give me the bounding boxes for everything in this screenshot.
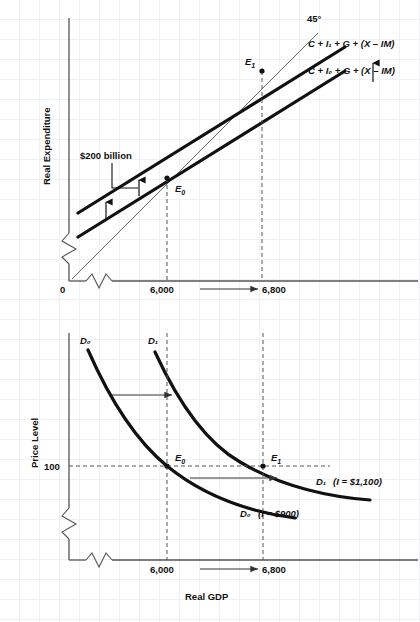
- figure-svg: E0 E1 45° C + I₁ + G + (X – IM) C + I₀ +…: [0, 0, 420, 622]
- bottom-e0-label: E0: [175, 452, 185, 465]
- d0-right-label: D₀: [240, 508, 251, 519]
- top-e0-label: E0: [175, 183, 185, 196]
- forty-five-degree-label: 45°: [307, 13, 322, 24]
- shift-amount-label: $200 billion: [80, 150, 132, 161]
- bottom-equilibrium-point-e1: [260, 463, 265, 468]
- bottom-xtick-6000: 6,000: [150, 564, 174, 575]
- economics-figure: E0 E1 45° C + I₁ + G + (X – IM) C + I₀ +…: [0, 0, 420, 622]
- top-y-axis-title: Real Expenditure: [41, 107, 52, 185]
- top-chart-panel: E0 E1 45° C + I₁ + G + (X – IM) C + I₀ +…: [41, 13, 418, 295]
- expenditure-upper-label: C + I₁ + G + (X – IM): [308, 38, 395, 49]
- bottom-equilibrium-point-e0: [164, 463, 169, 468]
- top-equilibrium-point-e1: [259, 68, 264, 73]
- d0-right-note: (I = $900): [258, 508, 299, 519]
- bottom-x-axis-title: Real GDP: [185, 591, 229, 602]
- bottom-y-axis-break: [62, 508, 76, 539]
- top-y-axis-break: [62, 233, 76, 264]
- d1-right-label: D₁: [316, 476, 326, 487]
- top-xtick-6000: 6,000: [150, 284, 174, 295]
- bottom-x-axis-break: [86, 553, 112, 567]
- bottom-xtick-6800: 6,800: [262, 564, 286, 575]
- bottom-y-axis-title: Price Level: [29, 418, 40, 468]
- top-origin-label: 0: [60, 284, 65, 295]
- top-equilibrium-point-e0: [164, 175, 169, 180]
- aggregate-demand-curve-d0: [88, 350, 295, 518]
- top-e1-label: E1: [245, 56, 255, 69]
- d1-top-label: D₁: [148, 335, 158, 346]
- d0-top-label: D₀: [80, 335, 91, 346]
- top-xtick-6800: 6,800: [262, 284, 286, 295]
- bottom-chart-panel: E0 E1 D₀ D₁ D₁ (I = $1,100) D₀ (I = $900…: [29, 333, 418, 602]
- bottom-e1-label: E1: [271, 452, 281, 465]
- d1-right-note: (I = $1,100): [333, 476, 382, 487]
- top-x-axis-break: [86, 274, 112, 288]
- expenditure-lower-label: C + I₀ + G + (X – IM): [308, 65, 395, 76]
- bottom-ytick-100: 100: [44, 461, 60, 472]
